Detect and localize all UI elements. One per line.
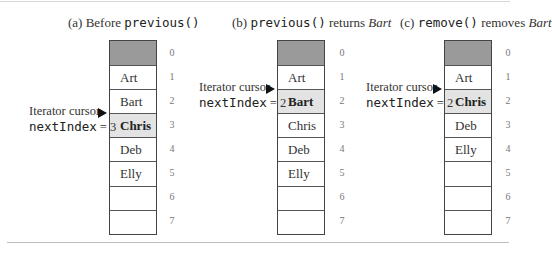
array-list-b: Art Bart Chris Deb Elly: [277, 40, 325, 235]
cursor-arrow-icon: [433, 84, 442, 94]
next-index-value: = 2: [434, 96, 454, 110]
iterator-cursor-label: Iterator cursor: [29, 104, 100, 119]
title-italic: Bart: [368, 15, 391, 30]
index-label: 5: [503, 167, 513, 178]
array-cell-0: [278, 41, 324, 65]
iterator-cursor-label: Iterator cursor: [366, 80, 437, 95]
title-code: remove(): [418, 15, 478, 30]
next-index-code: nextIndex: [29, 119, 97, 134]
array-cell-6: [445, 186, 491, 210]
title-text: returns: [326, 15, 369, 30]
array-cell-4: Elly: [445, 137, 491, 161]
index-label: 3: [503, 119, 513, 130]
next-index-label: nextIndex = 3: [29, 119, 116, 135]
title-text: removes: [478, 15, 529, 30]
array-list-a: Art Bart Chris Deb Elly: [109, 40, 157, 235]
array-cell-5: Elly: [278, 161, 324, 185]
index-label: 7: [167, 215, 177, 226]
index-label: 3: [337, 119, 347, 130]
index-label: 1: [337, 71, 347, 82]
index-label: 2: [503, 95, 513, 106]
array-cell-6: [110, 186, 156, 210]
array-cell-7: [110, 210, 156, 234]
index-label: 3: [167, 119, 177, 130]
index-label: 7: [503, 215, 513, 226]
index-label: 4: [167, 143, 177, 154]
next-index-code: nextIndex: [366, 95, 434, 110]
bottom-rule: [7, 242, 509, 243]
array-cell-1: Art: [445, 65, 491, 89]
panel-c-title: (c) remove() removes Bart: [400, 15, 552, 31]
cursor-arrow-icon: [266, 84, 275, 94]
array-cell-3: Chris: [278, 113, 324, 137]
next-index-label: nextIndex = 2: [199, 95, 286, 111]
index-label: 4: [337, 143, 347, 154]
array-cell-3: Deb: [445, 113, 491, 137]
index-label: 2: [167, 95, 177, 106]
array-cell-3-current: Chris: [110, 113, 156, 137]
top-rule: [0, 1, 510, 2]
index-label: 0: [337, 47, 347, 58]
array-cell-4: Deb: [278, 137, 324, 161]
index-label: 1: [167, 71, 177, 82]
array-list-c: Art Chris Deb Elly: [444, 40, 492, 235]
index-label: 5: [167, 167, 177, 178]
index-label: 6: [503, 191, 513, 202]
array-cell-1: Art: [110, 65, 156, 89]
panel-a-title: (a) Before previous(): [68, 15, 200, 31]
title-italic: Bart: [528, 15, 551, 30]
next-index-code: nextIndex: [199, 95, 267, 110]
index-label: 0: [167, 47, 177, 58]
array-cell-7: [445, 210, 491, 234]
next-index-value: = 2: [267, 96, 287, 110]
array-cell-4: Deb: [110, 137, 156, 161]
index-label: 6: [167, 191, 177, 202]
index-label: 7: [337, 215, 347, 226]
array-cell-5: Elly: [110, 161, 156, 185]
index-label: 6: [337, 191, 347, 202]
array-cell-7: [278, 210, 324, 234]
cursor-arrow-icon: [98, 108, 107, 118]
title-code: previous(): [250, 15, 325, 30]
title-code: previous(): [124, 15, 199, 30]
array-cell-1: Art: [278, 65, 324, 89]
panel-b-title: (b) previous() returns Bart: [232, 15, 391, 31]
array-cell-0: [110, 41, 156, 65]
title-text: (a) Before: [68, 15, 124, 30]
array-cell-5: [445, 161, 491, 185]
title-text: (c): [400, 15, 418, 30]
next-index-label: nextIndex = 2: [366, 95, 453, 111]
index-label: 5: [337, 167, 347, 178]
index-label: 1: [503, 71, 513, 82]
index-label: 4: [503, 143, 513, 154]
iterator-cursor-label: Iterator cursor: [199, 80, 270, 95]
array-cell-2: Bart: [110, 89, 156, 113]
index-label: 0: [503, 47, 513, 58]
array-cell-6: [278, 186, 324, 210]
index-label: 2: [337, 95, 347, 106]
array-cell-0: [445, 41, 491, 65]
title-text: (b): [232, 15, 250, 30]
next-index-value: = 3: [97, 120, 117, 134]
